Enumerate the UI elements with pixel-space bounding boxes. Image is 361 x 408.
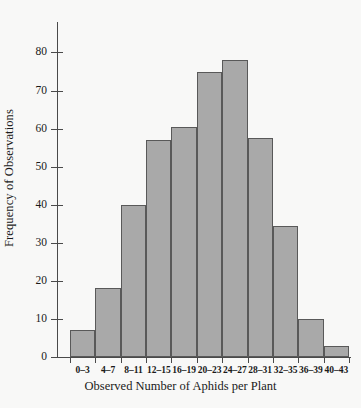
x-axis-tick xyxy=(70,358,71,363)
bar-series xyxy=(57,22,351,358)
y-axis-title: Frequency of Observations xyxy=(0,0,19,358)
x-axis-tick-label: 28–31 xyxy=(248,365,272,376)
y-axis-tick-label: 70 xyxy=(36,85,48,97)
x-axis-tick-label: 16–19 xyxy=(172,365,196,376)
x-axis-tick-label: 20–23 xyxy=(198,365,222,376)
y-axis-tick-label: 60 xyxy=(36,123,48,135)
histogram-bar xyxy=(121,205,146,357)
histogram-figure: Frequency of Observations 01020304050607… xyxy=(0,0,361,408)
histogram-bar xyxy=(95,288,120,357)
x-axis-tick xyxy=(273,358,274,363)
x-axis-tick xyxy=(298,358,299,363)
x-axis-tick-label: 0–3 xyxy=(76,365,90,376)
histogram-bar xyxy=(298,319,323,357)
histogram-bar xyxy=(222,60,247,357)
y-axis-tick-label: 0 xyxy=(41,351,47,363)
histogram-bar xyxy=(248,138,273,357)
histogram-bar xyxy=(324,346,349,357)
y-axis-tick-label: 20 xyxy=(36,275,48,287)
x-axis-tick xyxy=(349,358,350,363)
x-axis-tick-label: 32–35 xyxy=(274,365,298,376)
y-axis-tick-label: 80 xyxy=(36,47,48,59)
x-axis-tick xyxy=(222,358,223,363)
histogram-bar xyxy=(146,140,171,357)
x-axis-tick xyxy=(197,358,198,363)
histogram-bar xyxy=(171,127,196,357)
x-axis-tick-label: 24–27 xyxy=(223,365,247,376)
x-axis-tick xyxy=(248,358,249,363)
x-axis-tick xyxy=(146,358,147,363)
x-axis-tick-label: 8–11 xyxy=(124,365,142,376)
histogram-bar xyxy=(70,330,95,357)
y-axis-tick-label: 10 xyxy=(36,313,48,325)
x-axis-tick-label: 36–39 xyxy=(299,365,323,376)
x-axis-title: Observed Number of Aphids per Plant xyxy=(0,379,361,394)
x-axis-tick xyxy=(324,358,325,363)
y-axis-tick-label: 40 xyxy=(36,199,48,211)
x-axis-tick-label: 4–7 xyxy=(101,365,115,376)
y-axis-tick-label: 50 xyxy=(36,161,48,173)
x-axis-tick xyxy=(95,358,96,363)
x-axis-tick-label: 12–15 xyxy=(147,365,171,376)
x-axis-tick xyxy=(171,358,172,363)
x-axis-tick xyxy=(121,358,122,363)
plot-area: 01020304050607080 0–34–78–1112–1516–1920… xyxy=(57,22,351,358)
y-axis-tick-label: 30 xyxy=(36,237,48,249)
x-axis-tick-label: 40–43 xyxy=(324,365,348,376)
histogram-bar xyxy=(273,226,298,357)
histogram-bar xyxy=(197,72,222,358)
